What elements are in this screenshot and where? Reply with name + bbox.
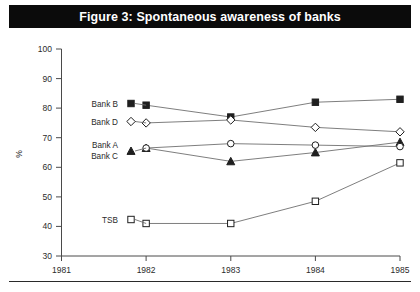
x-axis-ticks: 1981 1982 1983 1984 1985 — [52, 256, 410, 275]
y-axis-title: % — [14, 150, 24, 158]
x-tick-label: 1984 — [306, 265, 325, 275]
series-line — [146, 142, 400, 161]
series-labels: Bank B Bank D Bank A Bank C TSB — [91, 100, 118, 225]
series-legend-marker-bank-d — [127, 117, 135, 125]
series-legend-marker-tsb — [128, 216, 134, 222]
series-label-bank-b: Bank B — [92, 100, 119, 109]
figure-container: Figure 3: Spontaneous awareness of banks… — [0, 0, 420, 292]
data-point — [228, 220, 234, 226]
series-tsb — [143, 160, 403, 227]
chart-series-layer — [142, 96, 404, 227]
series-label-tsb: TSB — [102, 216, 118, 225]
series-bank-c — [143, 140, 403, 151]
y-tick-label: 60 — [43, 162, 53, 172]
y-tick-label: 100 — [38, 44, 52, 54]
x-tick-label: 1982 — [137, 265, 156, 275]
data-point — [397, 143, 404, 150]
figure-title: Figure 3: Spontaneous awareness of banks — [79, 10, 341, 24]
series-line — [146, 99, 400, 117]
y-tick-label: 70 — [43, 133, 53, 143]
data-point — [397, 96, 403, 102]
y-tick-label: 40 — [43, 221, 53, 231]
data-point — [396, 128, 404, 136]
series-label-bank-d: Bank D — [91, 118, 118, 127]
x-tick-label: 1985 — [391, 265, 410, 275]
series-line — [146, 144, 400, 148]
data-point — [397, 160, 403, 166]
bottom-divider — [9, 281, 411, 282]
data-point — [312, 99, 318, 105]
series-line — [146, 120, 400, 132]
series-bank-d — [142, 116, 404, 136]
x-tick-label: 1981 — [52, 265, 71, 275]
series-line — [146, 163, 400, 224]
y-tick-label: 30 — [43, 251, 53, 261]
data-point — [311, 123, 319, 131]
data-point — [312, 142, 319, 149]
series-legend-marker-bank-a — [127, 147, 135, 154]
y-tick-label: 50 — [43, 192, 53, 202]
y-axis-ticks: 100 90 80 70 60 50 40 30 — [38, 44, 62, 261]
data-point — [312, 198, 318, 204]
figure-title-bar: Figure 3: Spontaneous awareness of banks — [9, 5, 411, 28]
y-tick-label: 90 — [43, 74, 53, 84]
y-tick-label: 80 — [43, 103, 53, 113]
x-tick-label: 1983 — [221, 265, 240, 275]
data-point — [227, 140, 234, 147]
chart-plot-area: 100 90 80 70 60 50 40 30 % — [0, 30, 420, 275]
series-bank-b — [143, 96, 403, 120]
series-bank-a — [142, 138, 404, 165]
series-label-bank-c: Bank C — [91, 152, 118, 161]
series-label-bank-a: Bank A — [92, 141, 118, 150]
series-label-markers — [127, 100, 146, 223]
series-legend-marker-bank-b — [128, 100, 134, 106]
line-chart-svg: 100 90 80 70 60 50 40 30 % — [0, 30, 420, 275]
